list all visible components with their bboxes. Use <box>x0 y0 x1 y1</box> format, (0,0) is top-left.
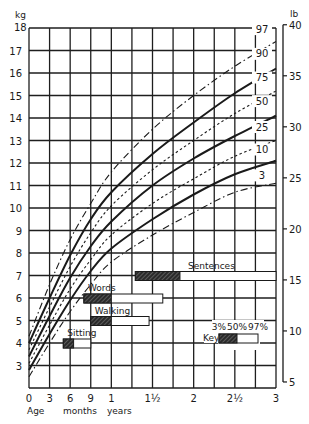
milestone-label-walking: Walking <box>95 306 130 316</box>
right-axis-unit: lb <box>290 9 299 19</box>
percentile-label-3: 3 <box>259 170 265 181</box>
y-tick-right: 10 <box>289 326 302 337</box>
x-tick: 0 <box>26 393 32 404</box>
y-tick-left: 8 <box>16 248 22 259</box>
y-tick-right: 20 <box>289 224 302 235</box>
milestone-hatch-sentences <box>135 272 180 281</box>
milestone-label-sitting: Sitting <box>67 328 96 338</box>
y-tick-left: 14 <box>9 113 22 124</box>
y-tick-right: 15 <box>289 275 302 286</box>
x-label-years: years <box>107 406 132 416</box>
y-tick-left: 18 <box>14 22 27 33</box>
x-tick: 1 <box>108 393 114 404</box>
milestone-label-sentences: Sentences <box>188 261 235 271</box>
percentile-label-75: 75 <box>256 72 269 83</box>
key-marker-label: 97% <box>248 322 268 332</box>
chart-key: Key3%50%97% <box>203 320 268 350</box>
y-tick-left: 15 <box>9 91 22 102</box>
y-tick-right: 25 <box>289 173 302 184</box>
y-tick-right: 40 <box>289 20 302 31</box>
key-marker-label: 3% <box>212 322 227 332</box>
x-tick: 1½ <box>144 393 160 404</box>
growth-chart: 9790755025103 SittingWalkingWordsSentenc… <box>0 0 309 424</box>
percentile-label-50: 50 <box>256 96 269 107</box>
x-label-months: months <box>63 406 97 416</box>
percentile-label-25: 25 <box>256 122 269 133</box>
y-tick-left: 16 <box>9 68 22 79</box>
y-tick-left: 13 <box>9 136 22 147</box>
x-tick: 3 <box>46 393 52 404</box>
y-tick-left: 3 <box>16 361 22 372</box>
y-tick-left: 7 <box>16 271 22 282</box>
y-tick-left: 4 <box>16 338 22 349</box>
y-tick-left: 9 <box>16 226 22 237</box>
y-tick-left: 10 <box>9 203 22 214</box>
y-tick-right: 30 <box>289 122 302 133</box>
y-tick-left: 5 <box>16 316 22 327</box>
milestone-hatch-sitting <box>63 339 73 348</box>
milestone-hatch-walking <box>91 317 112 326</box>
x-label-age: Age <box>27 406 45 416</box>
key-label: Key <box>203 333 220 343</box>
y-tick-left: 11 <box>9 181 22 192</box>
x-tick: 6 <box>67 393 73 404</box>
y-tick-right: 5 <box>289 377 295 388</box>
percentile-label-90: 90 <box>256 48 269 59</box>
key-hatch <box>219 334 237 343</box>
percentile-label-97: 97 <box>256 24 269 35</box>
y-tick-right: 35 <box>289 71 302 82</box>
x-tick: 9 <box>88 393 94 404</box>
percentile-label-10: 10 <box>256 144 269 155</box>
milestone-label-words: Words <box>88 283 116 293</box>
y-tick-left: 12 <box>9 158 22 169</box>
left-axis-unit: kg <box>15 10 26 20</box>
y-tick-left: 17 <box>9 46 22 57</box>
x-tick: 3 <box>273 393 279 404</box>
x-tick: 2 <box>190 393 196 404</box>
chart-axes: kg1834567891011121314151617lb51015202530… <box>9 9 301 416</box>
key-marker-label: 50% <box>227 322 247 332</box>
milestone-hatch-words <box>84 294 111 303</box>
y-tick-left: 6 <box>16 293 22 304</box>
x-tick: 2½ <box>227 393 243 404</box>
